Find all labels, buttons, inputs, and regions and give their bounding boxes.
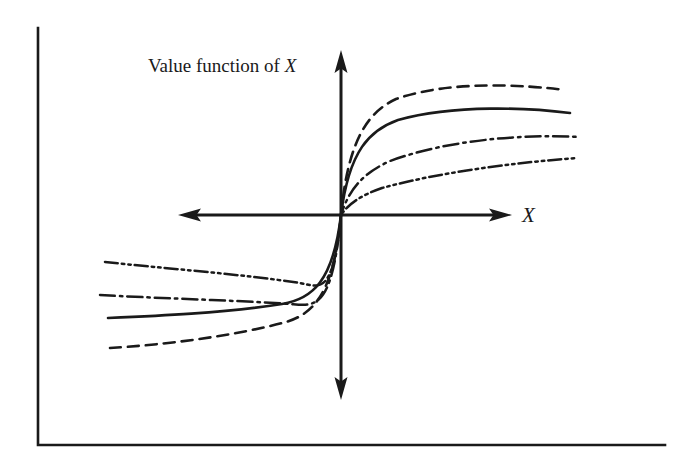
vertical-axis-label: Value function of X (148, 55, 298, 76)
vertical-axis-label-variable: X (284, 55, 298, 76)
value-function-figure: Value function of X X (0, 0, 697, 465)
horizontal-axis (178, 209, 512, 222)
vertical-axis-label-prefix: Value function of (148, 55, 285, 76)
page-frame (38, 28, 665, 445)
horizontal-axis-label: X (521, 203, 536, 227)
value-function-curves (100, 85, 578, 348)
figure-container: Value function of X X (0, 0, 697, 465)
frame-border (38, 28, 665, 445)
